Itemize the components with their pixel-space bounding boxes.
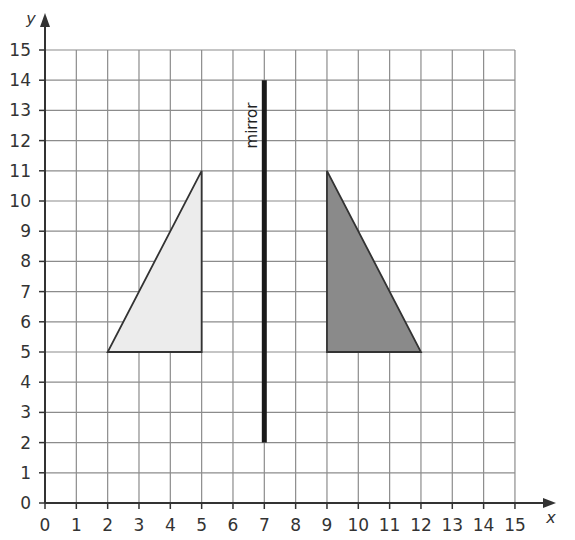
grid-lines [45,50,515,503]
mirror-label: mirror [243,102,261,149]
y-tick-label: 14 [9,70,31,90]
x-tick-label: 7 [259,515,270,535]
y-tick-label: 4 [20,372,31,392]
y-tick-label: 2 [20,433,31,453]
x-tick-label: 0 [40,515,51,535]
x-tick-label: 11 [379,515,401,535]
y-tick-label: 10 [9,191,31,211]
x-tick-label: 13 [441,515,463,535]
y-tick-label: 12 [9,131,31,151]
x-tick-label: 8 [290,515,301,535]
x-tick-label: 1 [71,515,82,535]
x-tick-label: 12 [410,515,432,535]
x-tick-label: 4 [165,515,176,535]
y-tick-label: 5 [20,342,31,362]
y-tick-label: 7 [20,282,31,302]
x-tick-label: 14 [473,515,495,535]
y-tick-label: 0 [20,493,31,513]
y-tick-label: 3 [20,402,31,422]
y-tick-label: 1 [20,463,31,483]
x-axis-arrow-icon [543,498,556,508]
y-axis-arrow-icon [40,13,50,27]
y-tick-label: 15 [9,40,31,60]
x-axis-label: x [545,508,556,527]
y-axis-label: y [25,9,36,28]
x-tick-label: 9 [322,515,333,535]
x-tick-label: 6 [228,515,239,535]
tick-labels: 0123456789101112131415012345678910111213… [9,9,556,535]
y-tick-label: 8 [20,251,31,271]
y-tick-label: 13 [9,100,31,120]
y-tick-label: 6 [20,312,31,332]
x-tick-label: 3 [134,515,145,535]
x-tick-label: 5 [196,515,207,535]
coordinate-grid: mirror 012345678910111213141501234567891… [0,0,575,540]
x-tick-label: 2 [102,515,113,535]
y-tick-label: 9 [20,221,31,241]
y-tick-label: 11 [9,161,31,181]
x-tick-label: 10 [347,515,369,535]
x-tick-label: 15 [504,515,526,535]
